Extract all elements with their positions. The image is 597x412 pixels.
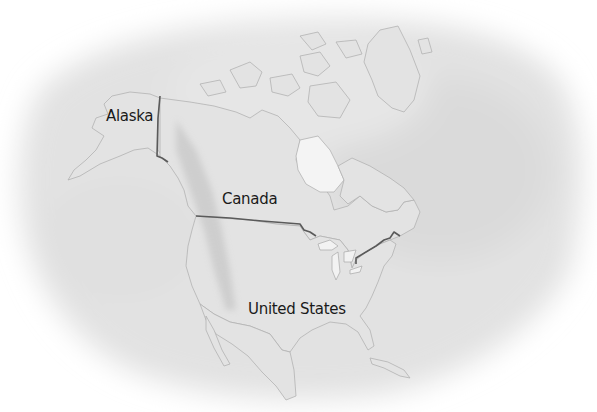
label-canada: Canada	[222, 190, 277, 208]
label-united-states: United States	[248, 300, 346, 318]
north-america-map	[0, 0, 597, 412]
label-alaska: Alaska	[106, 107, 153, 125]
